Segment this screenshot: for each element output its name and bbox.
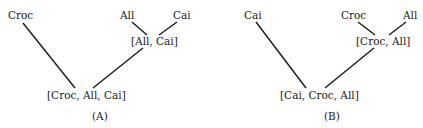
tree-b-leaf-1: Cai (244, 10, 262, 21)
edge-b-cai-root (256, 22, 306, 88)
tree-a-leaf-1: Croc (8, 10, 33, 21)
edge-a-all-inner (132, 22, 147, 35)
edge-b-croc-inner (358, 22, 375, 35)
tree-b-leaf-2: Croc (341, 10, 366, 21)
tree-a-leaf-3: Cai (173, 10, 191, 21)
edge-b-all-inner (389, 22, 406, 35)
tree-a-caption: (A) (92, 111, 108, 122)
edge-b-inner-root (325, 48, 374, 88)
edge-a-croc-root (23, 23, 75, 88)
tree-a-inner-node: [All, Cai] (131, 36, 178, 47)
edge-a-inner-root (93, 48, 143, 88)
tree-b-leaf-3: All (403, 10, 417, 21)
tree-a-root: [Croc, All, Cai] (47, 90, 126, 101)
tree-a-leaf-2: All (120, 10, 134, 21)
edge-a-cai-inner (159, 22, 177, 35)
tree-b-root: [Cai, Croc, All] (280, 90, 359, 101)
tree-b-inner-node: [Croc, All] (356, 36, 410, 47)
tree-b-caption: (B) (324, 111, 340, 122)
